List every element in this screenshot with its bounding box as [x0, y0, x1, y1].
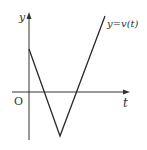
velocity-graph: y t O y=v(t) — [0, 0, 147, 150]
t-axis-arrow-icon — [123, 90, 130, 95]
t-axis-label: t — [123, 96, 128, 110]
y-axis-label: y — [18, 11, 26, 24]
curve-label: y=v(t) — [106, 18, 139, 29]
curve-v-t — [29, 16, 105, 136]
y-axis-arrow-icon — [27, 12, 32, 19]
origin-label: O — [14, 95, 23, 108]
